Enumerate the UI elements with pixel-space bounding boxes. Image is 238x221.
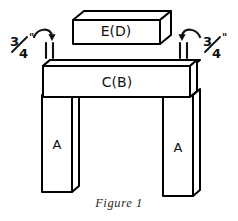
right-leg-side-face	[193, 89, 200, 196]
left-leader-arrow	[34, 30, 52, 37]
left-dim-unit: "	[29, 32, 34, 43]
left-leg-side-face	[72, 89, 79, 192]
figure-container: E(D) A A C(B)	[0, 0, 238, 221]
left-arrow-head	[48, 34, 55, 41]
dimension-right-gap: 3 4 "	[178, 30, 227, 61]
block-e-label: E(D)	[101, 23, 132, 39]
part-beam-c-b: C(B)	[43, 60, 200, 97]
left-dim-denominator: 4	[19, 46, 28, 61]
dimension-left-gap: 3 4 "	[10, 30, 56, 61]
part-leg-right-a: A	[163, 89, 200, 196]
block-e-top-face	[73, 11, 171, 20]
right-arrow-head	[178, 34, 185, 41]
part-block-e-d: E(D)	[73, 11, 171, 44]
left-leg-label: A	[53, 137, 62, 152]
beam-end-face	[190, 60, 197, 97]
figure-caption: Figure 1	[0, 196, 238, 211]
beam-label: C(B)	[102, 74, 132, 90]
right-dim-denominator: 4	[212, 46, 221, 61]
right-leader-arrow	[182, 30, 200, 37]
right-leg-label: A	[174, 140, 183, 155]
part-leg-left-a: A	[42, 89, 79, 192]
right-dim-unit: "	[222, 32, 227, 43]
assembly-drawing: E(D) A A C(B)	[0, 0, 238, 221]
